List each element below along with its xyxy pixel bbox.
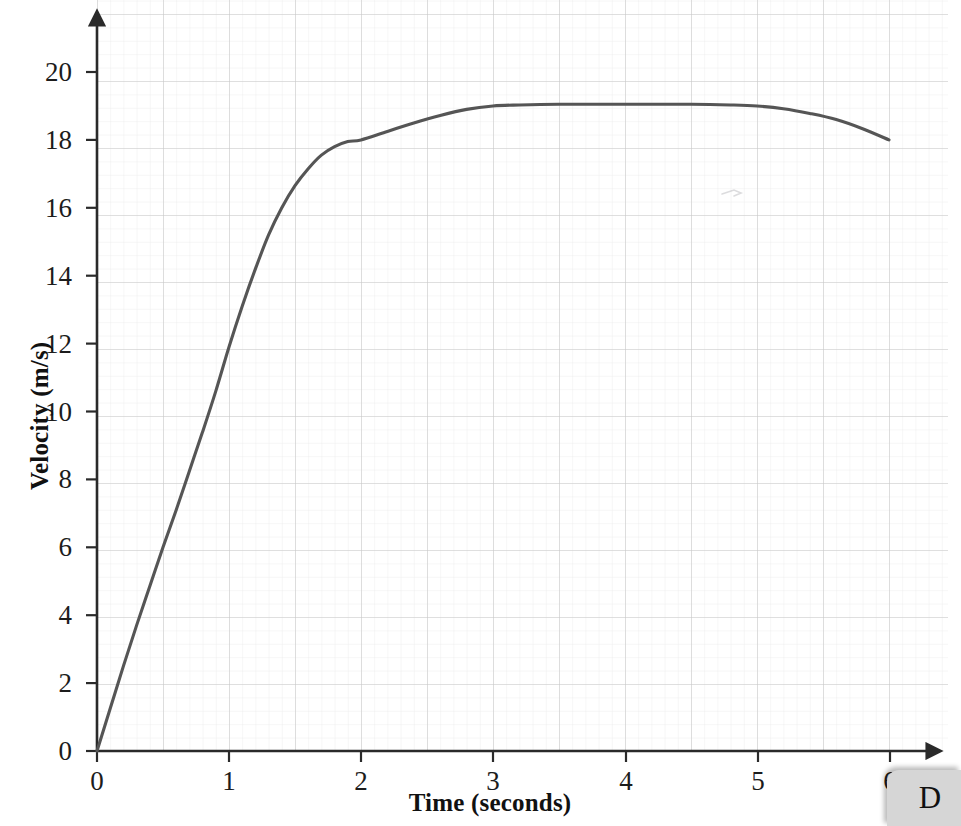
page-corner-badge[interactable]: D — [887, 770, 961, 826]
y-tick-label: 16 — [28, 195, 72, 222]
x-axis-title: Time (seconds) — [390, 789, 590, 817]
y-axis-title: Velocity (m/s) — [26, 342, 54, 490]
y-tick-label: 14 — [28, 263, 72, 290]
y-tick-label: 4 — [28, 602, 72, 629]
y-tick-label: 6 — [28, 534, 72, 561]
page-corner-label: D — [919, 780, 941, 816]
x-tick-label: 0 — [90, 768, 104, 795]
y-tick-label: 18 — [28, 127, 72, 154]
x-tick-label: 5 — [751, 768, 765, 795]
grid-major — [97, 0, 948, 751]
y-tick-label: 2 — [28, 670, 72, 697]
y-tick-label: 0 — [28, 738, 72, 765]
x-tick-label: 2 — [354, 768, 368, 795]
y-axis-ticks — [86, 72, 97, 751]
x-axis-ticks — [97, 751, 890, 762]
x-tick-label: 4 — [619, 768, 633, 795]
x-tick-label: 1 — [222, 768, 236, 795]
y-tick-label: 20 — [28, 59, 72, 86]
